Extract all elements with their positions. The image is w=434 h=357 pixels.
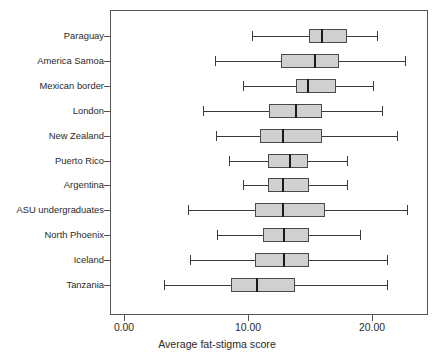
whisker-cap-min bbox=[188, 205, 189, 215]
whisker-cap-min bbox=[203, 106, 204, 116]
median-line bbox=[314, 54, 316, 68]
whisker-cap-min bbox=[252, 31, 253, 41]
median-line bbox=[321, 29, 323, 43]
box-iqr bbox=[231, 278, 295, 292]
whisker-cap-max bbox=[382, 106, 383, 116]
median-line bbox=[282, 203, 284, 217]
whisker-cap-max bbox=[407, 205, 408, 215]
median-line bbox=[283, 228, 285, 242]
whisker-cap-max bbox=[347, 180, 348, 190]
box-iqr bbox=[296, 79, 336, 93]
median-line bbox=[282, 178, 284, 192]
whisker-cap-max bbox=[397, 131, 398, 141]
boxplot-box bbox=[0, 200, 434, 220]
value-tick bbox=[372, 315, 373, 321]
boxplot-figure: ParaguayAmerica SamoaMexican borderLondo… bbox=[0, 0, 434, 357]
whisker-cap-min bbox=[216, 131, 217, 141]
boxplot-box bbox=[0, 26, 434, 46]
whisker-cap-max bbox=[377, 31, 378, 41]
whisker-cap-min bbox=[215, 56, 216, 66]
box-iqr bbox=[281, 54, 338, 68]
whisker-cap-max bbox=[387, 255, 388, 265]
whisker-cap-min bbox=[243, 180, 244, 190]
box-iqr bbox=[268, 154, 308, 168]
boxplot-box bbox=[0, 275, 434, 295]
value-tick bbox=[248, 315, 249, 321]
boxplot-box bbox=[0, 51, 434, 71]
whisker-cap-min bbox=[243, 81, 244, 91]
median-line bbox=[283, 253, 285, 267]
value-tick-label: 10.00 bbox=[235, 322, 261, 333]
box-iqr bbox=[260, 129, 322, 143]
boxplot-box bbox=[0, 250, 434, 270]
boxplot-box bbox=[0, 101, 434, 121]
whisker-cap-min bbox=[164, 280, 165, 290]
median-line bbox=[295, 104, 297, 118]
box-iqr bbox=[263, 228, 309, 242]
box-iqr bbox=[268, 178, 309, 192]
whisker-cap-max bbox=[405, 56, 406, 66]
whisker-cap-max bbox=[373, 81, 374, 91]
median-line bbox=[282, 129, 284, 143]
x-axis-title: Average fat-stigma score bbox=[0, 338, 434, 350]
box-iqr bbox=[309, 29, 347, 43]
boxplot-box bbox=[0, 175, 434, 195]
boxplot-box bbox=[0, 151, 434, 171]
whisker-cap-min bbox=[229, 156, 230, 166]
median-line bbox=[289, 154, 291, 168]
median-line bbox=[307, 79, 309, 93]
value-tick bbox=[124, 315, 125, 321]
value-tick-label: 20.00 bbox=[359, 322, 385, 333]
median-line bbox=[256, 278, 258, 292]
whisker-cap-min bbox=[217, 230, 218, 240]
whisker-cap-max bbox=[387, 280, 388, 290]
box-iqr bbox=[255, 203, 324, 217]
boxplot-box bbox=[0, 76, 434, 96]
value-tick-label: 0.00 bbox=[114, 322, 134, 333]
whisker-cap-max bbox=[347, 156, 348, 166]
whisker-cap-max bbox=[360, 230, 361, 240]
whisker-cap-min bbox=[190, 255, 191, 265]
boxplot-box bbox=[0, 126, 434, 146]
boxplot-box bbox=[0, 225, 434, 245]
